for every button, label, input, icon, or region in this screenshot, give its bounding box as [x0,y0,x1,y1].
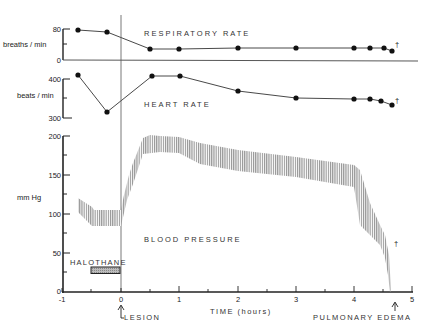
resp-death-marker: † [395,40,399,49]
resp-tick-80: 80 [53,25,61,34]
x-tick-neg1: -1 [59,295,66,304]
hr-points [75,72,394,114]
x-tick-4: 4 [352,295,356,304]
physiology-chart: 80 0 breaths / min RESPIRATORY RATE † 40… [0,0,426,333]
hr-line [78,75,392,112]
bp-title: BLOOD PRESSURE [144,235,242,244]
bp-band [78,135,391,292]
x-tick-5: 5 [410,295,414,304]
bp-tick-200: 200 [48,132,61,141]
bp-tick-50: 50 [53,249,61,258]
heart-rate-panel: 400 300 beats / min HEART RATE † [17,72,399,123]
x-tick-2: 2 [236,295,240,304]
halothane-bar [91,267,120,274]
pulmonary-edema-label: PULMONARY EDEMA [313,313,412,322]
blood-pressure-panel: 200 150 100 50 0 mm Hg -1 0 1 2 3 4 5 TI… [17,132,414,316]
resp-y-label: breaths / min [3,40,46,49]
hr-title: HEART RATE [144,100,211,109]
hr-tick-400: 400 [48,75,61,84]
bp-death-marker: † [394,239,398,248]
pulmonary-edema-annotation: PULMONARY EDEMA [313,302,412,322]
lesion-label: LESION [124,313,161,322]
halothane-label: HALOTHANE [70,258,127,267]
hr-tick-300: 300 [48,114,61,123]
x-tick-1: 1 [177,295,181,304]
bp-tick-150: 150 [48,171,61,180]
lesion-annotation: LESION [118,305,161,322]
bp-y-label: mm Hg [17,193,41,202]
hr-y-label: beats / min [17,91,54,100]
x-tick-0: 0 [119,295,123,304]
bp-tick-100: 100 [48,210,61,219]
x-tick-3: 3 [294,295,298,304]
respiratory-panel: 80 0 breaths / min RESPIRATORY RATE † [3,25,418,65]
hr-death-marker: † [395,96,399,105]
resp-title: RESPIRATORY RATE [144,29,250,38]
resp-tick-0: 0 [57,56,61,65]
x-axis-title: TIME (hours) [210,307,272,316]
